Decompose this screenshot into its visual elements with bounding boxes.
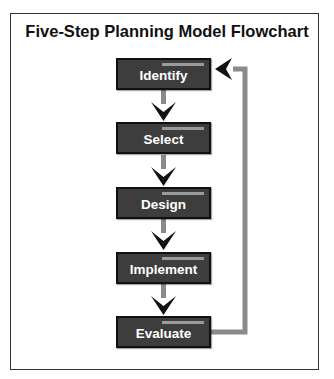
box-highlight	[162, 63, 204, 66]
step-evaluate: Evaluate	[116, 316, 211, 348]
step-label: Design	[141, 197, 186, 212]
step-identify: Identify	[116, 58, 211, 90]
connector-identify-select	[151, 90, 176, 121]
box-highlight	[162, 192, 204, 195]
box-highlight	[162, 127, 204, 130]
arrowhead-down-icon	[151, 231, 176, 250]
arrowhead-down-icon	[151, 102, 176, 121]
connector-implement-evaluate	[151, 284, 176, 315]
step-design: Design	[116, 187, 211, 219]
connector-select-design	[151, 155, 176, 186]
arrowhead-down-icon	[151, 167, 176, 186]
box-highlight	[162, 257, 204, 260]
step-implement: Implement	[116, 252, 211, 284]
feedback-loop-connector	[211, 58, 245, 332]
step-select: Select	[116, 122, 211, 154]
step-label: Select	[144, 132, 184, 147]
box-highlight	[162, 321, 204, 324]
arrowhead-down-icon	[151, 296, 176, 315]
step-label: Implement	[130, 262, 198, 277]
connector-design-implement	[151, 219, 176, 250]
step-label: Evaluate	[136, 326, 192, 341]
step-label: Identify	[139, 68, 187, 83]
arrowhead-left-icon	[215, 58, 232, 80]
